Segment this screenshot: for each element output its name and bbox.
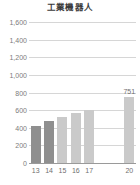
bar-series: 751 (29, 22, 136, 163)
bar (57, 117, 67, 163)
x-axis-tick-label: 20 (120, 167, 138, 175)
chart-container: 工業機器人 02004006008001,0001,2001,4001,600 … (0, 0, 140, 185)
bar (124, 97, 134, 163)
plot-area: 02004006008001,0001,2001,4001,600 751 13… (0, 0, 140, 185)
bar (44, 121, 54, 163)
x-axis-tick-label: 17 (80, 167, 98, 175)
x-axis-line (29, 163, 136, 164)
y-axis-tick-labels: 02004006008001,0001,2001,4001,600 (0, 22, 27, 163)
y-axis-tick-label: 1,000 (0, 71, 27, 78)
x-axis-tick-labels: 131415161720 (29, 167, 136, 179)
bar-value-label: 751 (115, 88, 140, 95)
y-axis-tick-label: 1,400 (0, 36, 27, 43)
y-axis-tick-label: 600 (0, 107, 27, 114)
bar (84, 110, 94, 163)
y-axis-tick-label: 1,600 (0, 19, 27, 26)
y-axis-tick-label: 400 (0, 124, 27, 131)
y-axis-tick-label: 800 (0, 89, 27, 96)
bar (71, 113, 81, 163)
y-axis-tick-label: 0 (0, 160, 27, 167)
y-axis-tick-label: 200 (0, 142, 27, 149)
bar (31, 126, 41, 163)
y-axis-tick-label: 1,200 (0, 54, 27, 61)
